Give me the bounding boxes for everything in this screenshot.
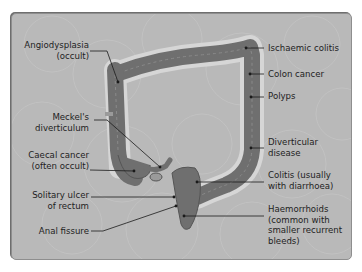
label-meckels-diverticulum: Meckel's diverticulum [35,112,89,133]
label-line: (often occult) [28,161,89,172]
label-anal-fissure: Anal fissure [39,226,89,237]
label-line: Angiodysplasia [24,40,89,51]
label-angiodysplasia: Angiodysplasia (occult) [24,40,89,61]
label-line: Polyps [268,91,296,102]
label-line: Ischaemic colitis [268,43,339,54]
label-line: bleeds) [268,236,342,247]
appendix [150,173,162,181]
label-haemorrhoids: Haemorrhoids (common with smaller recurr… [268,204,342,246]
label-colitis: Colitis (usually with diarrhoea) [268,170,333,191]
label-line: smaller recurrent [268,225,342,236]
meckels-stub [105,112,113,116]
label-caecal-cancer: Caecal cancer (often occult) [28,150,89,171]
label-ischaemic-colitis: Ischaemic colitis [268,43,339,54]
label-line: with diarrhoea) [268,181,333,192]
label-line: Colon cancer [268,69,324,80]
label-line: Anal fissure [39,226,89,237]
label-polyps: Polyps [268,91,296,102]
label-line: Solitary ulcer [32,190,89,201]
label-line: Colitis (usually [268,170,333,181]
label-line: Diverticular [268,137,318,148]
rectum [172,167,200,229]
label-colon-cancer: Colon cancer [268,69,324,80]
label-line: disease [268,148,318,159]
label-line: (common with [268,215,342,226]
label-line: Meckel's [35,112,89,123]
label-line: Caecal cancer [28,150,89,161]
label-diverticular-disease: Diverticular disease [268,137,318,158]
label-line: Haemorrhoids [268,204,342,215]
label-line: of rectum [32,201,89,212]
label-solitary-ulcer: Solitary ulcer of rectum [32,190,89,211]
label-line: diverticulum [35,123,89,134]
label-line: (occult) [24,51,89,62]
